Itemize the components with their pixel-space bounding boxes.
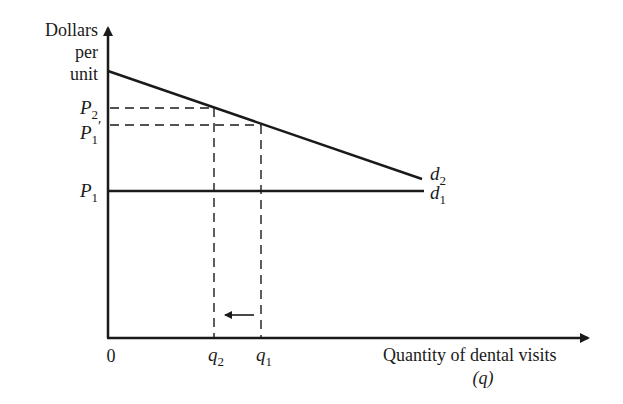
demand-diagram: Dollars per unit P2 P1′ P1 d2 d1 0 q2 q1… bbox=[0, 0, 623, 404]
quantity-label-q1: q1 bbox=[256, 344, 272, 369]
y-axis-label-line-2: per bbox=[75, 42, 98, 62]
x-axis-label: Quantity of dental visits bbox=[383, 345, 556, 365]
y-axis-label-line-3: unit bbox=[70, 64, 98, 84]
x-axis-sublabel: (q) bbox=[473, 368, 494, 389]
price-label-p1: P1 bbox=[79, 180, 98, 205]
price-label-p1-prime: P1′ bbox=[79, 118, 101, 147]
price-label-p2: P2 bbox=[79, 97, 98, 122]
quantity-label-q2: q2 bbox=[208, 344, 224, 369]
origin-label: 0 bbox=[107, 346, 116, 366]
y-axis-label-line-1: Dollars bbox=[45, 20, 98, 40]
